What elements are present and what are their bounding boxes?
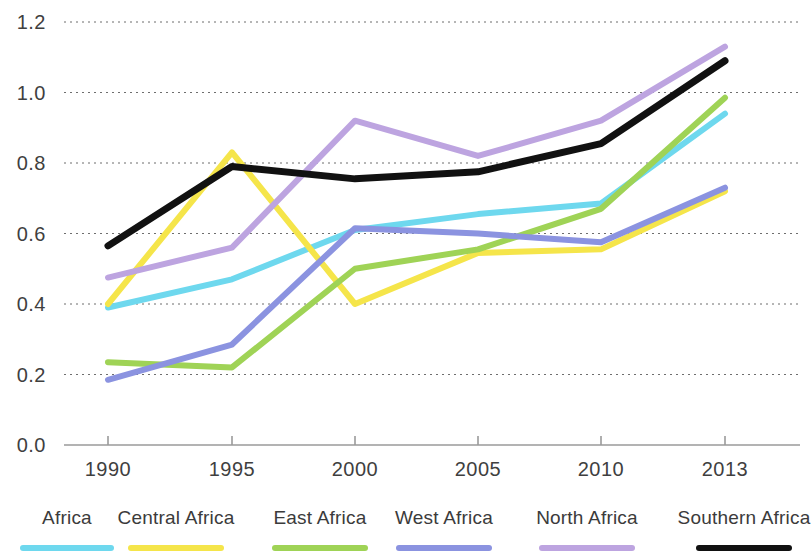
legend-label: Central Africa — [86, 505, 266, 531]
plot-area — [0, 0, 811, 500]
x-tick-label-2010: 2010 — [578, 458, 625, 481]
x-tick-label-1990: 1990 — [85, 458, 132, 481]
y-tick-label-0.2: 0.2 — [17, 363, 46, 386]
legend-item-southern-africa[interactable]: Southern Africa — [659, 505, 811, 551]
y-tick-label-0.0: 0.0 — [17, 434, 46, 457]
legend-swatch — [396, 545, 492, 551]
y-axis-tick-labels: 0.00.20.40.60.81.01.2 — [0, 0, 64, 500]
legend-item-north-africa[interactable]: North Africa — [512, 505, 662, 551]
x-tick-label-2000: 2000 — [332, 458, 379, 481]
legend-label: West Africa — [369, 505, 519, 531]
series-line-southern-africa — [108, 61, 725, 246]
x-axis-tick-labels: 199019952000200520102013 — [0, 458, 811, 492]
y-tick-label-0.6: 0.6 — [17, 222, 46, 245]
series-line-north-africa — [108, 47, 725, 278]
y-tick-label-1.0: 1.0 — [17, 81, 46, 104]
x-tick-label-2005: 2005 — [455, 458, 502, 481]
legend-item-west-africa[interactable]: West Africa — [369, 505, 519, 551]
chart-canvas — [0, 0, 811, 500]
legend-swatch — [696, 545, 792, 551]
chart-legend: AfricaCentral AfricaEast AfricaWest Afri… — [0, 505, 811, 559]
line-chart-figure: 0.00.20.40.60.81.01.2 199019952000200520… — [0, 0, 811, 559]
x-tick-label-2013: 2013 — [702, 458, 749, 481]
legend-label: Southern Africa — [659, 505, 811, 531]
legend-swatch — [128, 545, 224, 551]
legend-swatch — [539, 545, 635, 551]
legend-item-central-africa[interactable]: Central Africa — [86, 505, 266, 551]
legend-swatch — [272, 545, 368, 551]
legend-label: North Africa — [512, 505, 662, 531]
y-tick-label-0.8: 0.8 — [17, 152, 46, 175]
y-tick-label-1.2: 1.2 — [17, 11, 46, 34]
y-tick-label-0.4: 0.4 — [17, 293, 46, 316]
x-tick-label-1995: 1995 — [209, 458, 256, 481]
